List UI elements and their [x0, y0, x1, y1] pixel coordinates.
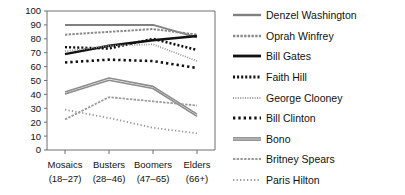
legend-swatch-icon	[232, 50, 262, 62]
legend-swatch-icon	[232, 30, 262, 42]
y-tick-label: 60	[30, 61, 41, 72]
legend-swatch-icon	[232, 112, 262, 124]
x-tick-label: Mosaics	[48, 159, 83, 170]
y-tick-label: 30	[30, 103, 41, 114]
legend-item[interactable]: Oprah Winfrey	[232, 26, 405, 47]
legend-item[interactable]: Faith Hill	[232, 67, 405, 88]
y-tick-label: 40	[30, 89, 41, 100]
legend-swatch-icon	[232, 174, 262, 186]
x-tick-sublabel: (66+)	[186, 173, 208, 184]
x-tick-label: Boomers	[134, 159, 172, 170]
legend-item[interactable]: Paris Hilton	[232, 170, 405, 191]
series-line	[65, 44, 197, 61]
y-tick-label: 100	[25, 5, 41, 16]
legend-label: Bill Clinton	[266, 112, 316, 124]
y-tick-label: 50	[30, 75, 41, 86]
legend-swatch-icon	[232, 153, 262, 165]
y-tick-label: 20	[30, 117, 41, 128]
legend-item[interactable]: Bill Gates	[232, 46, 405, 67]
series-line	[65, 36, 197, 54]
x-tick-sublabel: (47–65)	[137, 173, 170, 184]
legend-label: Denzel Washington	[266, 9, 357, 21]
legend-label: Bono	[266, 133, 291, 145]
x-axis-labels: Mosaics(18–27)Busters(28–46)Boomers(47–6…	[48, 159, 211, 184]
data-series-group	[65, 25, 197, 133]
x-tick-label: Elders	[184, 159, 211, 170]
y-tick-label: 0	[36, 144, 41, 155]
line-chart-svg: 0102030405060708090100 Mosaics(18–27)Bus…	[0, 0, 222, 195]
series-line	[65, 110, 197, 134]
legend-swatch-icon	[232, 9, 262, 21]
legend-item[interactable]: Bill Clinton	[232, 108, 405, 129]
y-tick-label: 70	[30, 47, 41, 58]
axis-frame	[47, 11, 215, 150]
x-tick-sublabel: (28–46)	[93, 173, 126, 184]
legend-item[interactable]: Britney Spears	[232, 149, 405, 170]
x-axis	[65, 150, 197, 154]
legend-swatch-icon	[232, 92, 262, 104]
y-tick-label: 90	[30, 19, 41, 30]
legend-swatch-icon	[232, 133, 262, 145]
legend-label: Bill Gates	[266, 50, 311, 62]
legend-item[interactable]: Denzel Washington	[232, 5, 405, 26]
legend-label: George Clooney	[266, 92, 342, 104]
legend-item[interactable]: George Clooney	[232, 87, 405, 108]
plot-area: 0102030405060708090100 Mosaics(18–27)Bus…	[0, 0, 222, 195]
series-line	[65, 29, 197, 35]
legend-label: Paris Hilton	[266, 174, 320, 186]
y-tick-label: 10	[30, 131, 41, 142]
legend: Denzel WashingtonOprah WinfreyBill Gates…	[232, 5, 405, 193]
legend-label: Oprah Winfrey	[266, 30, 334, 42]
y-axis: 0102030405060708090100	[25, 5, 47, 155]
x-tick-sublabel: (18–27)	[49, 173, 82, 184]
legend-swatch-icon	[232, 71, 262, 83]
legend-label: Britney Spears	[266, 153, 335, 165]
legend-item[interactable]: Bono	[232, 129, 405, 150]
chart-container: 0102030405060708090100 Mosaics(18–27)Bus…	[0, 0, 405, 195]
series-line	[65, 97, 197, 119]
legend-label: Faith Hill	[266, 71, 307, 83]
series-line	[65, 60, 197, 68]
x-tick-label: Busters	[93, 159, 125, 170]
y-tick-label: 80	[30, 33, 41, 44]
